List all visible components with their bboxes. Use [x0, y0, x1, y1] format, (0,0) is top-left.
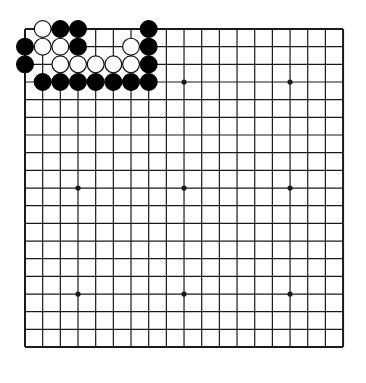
black-stone: [17, 56, 34, 73]
white-stone: [105, 56, 122, 73]
white-stone: [123, 56, 140, 73]
white-stone: [34, 38, 51, 55]
white-stone: [123, 38, 140, 55]
white-stone: [34, 21, 51, 38]
star-point: [287, 79, 292, 84]
black-stone: [52, 74, 69, 91]
star-point: [75, 291, 80, 296]
black-stone: [70, 38, 87, 55]
black-stone: [140, 38, 157, 55]
black-stone: [140, 74, 157, 91]
black-stone: [140, 56, 157, 73]
star-point: [287, 185, 292, 190]
star-point: [287, 291, 292, 296]
black-stone: [70, 21, 87, 38]
star-point: [181, 185, 186, 190]
black-stone: [105, 74, 122, 91]
black-stone: [17, 38, 34, 55]
black-stone: [52, 21, 69, 38]
stones: [17, 21, 157, 91]
star-point: [75, 185, 80, 190]
white-stone: [87, 56, 104, 73]
black-stone: [87, 74, 104, 91]
go-board[interactable]: [0, 0, 366, 383]
white-stone: [52, 56, 69, 73]
black-stone: [123, 74, 140, 91]
black-stone: [70, 74, 87, 91]
black-stone: [140, 21, 157, 38]
star-point: [181, 79, 186, 84]
black-stone: [34, 74, 51, 91]
star-point: [181, 291, 186, 296]
white-stone: [70, 56, 87, 73]
white-stone: [52, 38, 69, 55]
